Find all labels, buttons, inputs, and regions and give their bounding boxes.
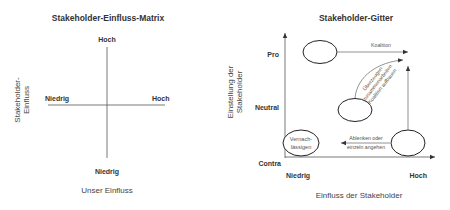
matrix-title: Stakeholder-Einfluss-Matrix (52, 13, 165, 23)
grid-x-tick-high: Hoch (410, 172, 428, 179)
grid-y-tick-neutral: Neutral (255, 104, 279, 111)
grid-y-axis-label-line1: Einstellung der (226, 65, 235, 118)
grid-y-tick-contra: Contra (258, 160, 281, 167)
matrix-bottom-label: Niedrig (95, 168, 119, 176)
diagram-canvas: Stakeholder-Einfluss-Matrix Hoch Niedrig… (0, 0, 450, 210)
influence-matrix: Stakeholder-Einfluss-Matrix Hoch Niedrig… (13, 13, 170, 195)
grid-y-tick-pro: Pro (267, 51, 279, 58)
node-contra-high (391, 130, 425, 156)
node-contra-low-label-line2: lässigen (291, 144, 312, 150)
stakeholder-grid: Stakeholder-Gitter Pro Neutral Contra Ni… (226, 13, 435, 200)
matrix-left-label: Niedrig (45, 95, 69, 103)
matrix-right-label: Hoch (152, 95, 170, 102)
grid-x-tick-low: Niedrig (286, 172, 310, 180)
arrow-distract-label-line2: einzeln angehen (347, 144, 385, 150)
node-pro-high (303, 41, 337, 64)
matrix-x-axis-label: Unser Einfluss (81, 186, 133, 195)
matrix-y-axis-label-line1: Stakeholder- (13, 77, 22, 123)
node-contra-low (283, 130, 319, 156)
grid-x-axis-label: Einfluss der Stakeholder (316, 191, 403, 200)
arrow-distract-label-line1: Ablenken oder (349, 135, 383, 141)
grid-title: Stakeholder-Gitter (319, 13, 394, 23)
arrow-coalition-label: Koalition (371, 42, 391, 48)
node-contra-low-label-line1: Vernach- (290, 136, 313, 142)
matrix-top-label: Hoch (98, 36, 116, 43)
grid-y-axis-label-line2: Stakeholder (235, 70, 244, 113)
matrix-y-axis-label-line2: Einfluss (22, 86, 31, 114)
